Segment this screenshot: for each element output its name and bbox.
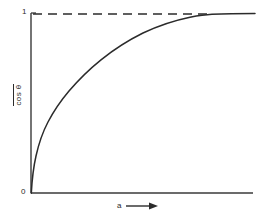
y-axis-label: cos θ bbox=[11, 73, 25, 117]
curve-mean-cosine bbox=[31, 14, 255, 194]
y-axis-label-text: cos θ bbox=[13, 84, 23, 105]
origin-tick-label: 0 bbox=[21, 188, 25, 196]
x-axis-label-text: a bbox=[117, 202, 121, 210]
arrow-right-icon bbox=[125, 201, 159, 211]
figure-canvas: cos θ 1 0 a bbox=[0, 0, 267, 220]
plot-area bbox=[0, 0, 267, 220]
x-axis-label: a bbox=[117, 198, 159, 214]
y-tick-label-one: 1 bbox=[22, 8, 26, 16]
